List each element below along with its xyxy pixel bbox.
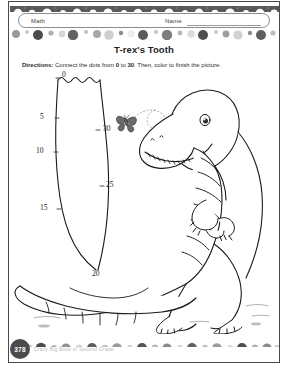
t-rex-figure (15, 90, 262, 334)
worksheet-page: Math Name (0, 0, 288, 373)
t-rex-back (238, 132, 262, 278)
t-rex-leg-right (211, 244, 241, 329)
dot-label-5: 5 (40, 112, 44, 121)
header-decorative-band (10, 28, 279, 40)
page-title: T-rex's Tooth (0, 44, 288, 55)
directions-part1: Connect the dots from (53, 62, 115, 68)
directions-text: Directions: Connect the dots from 0 to 3… (22, 61, 268, 69)
dot-label-15: 15 (40, 203, 48, 212)
dot-label-10: 10 (36, 146, 44, 155)
footer-credit: Crazy Big Book of Second Grade (34, 346, 114, 352)
dot-label-30: 30 (103, 124, 111, 133)
subject-label: Math (31, 18, 45, 24)
name-label: Name (165, 18, 182, 24)
name-input-line[interactable] (187, 25, 261, 26)
activity-artwork: 0 5 10 15 20 25 30 (10, 72, 278, 334)
dot-label-0: 0 (62, 70, 66, 79)
page-number-badge: 378 (10, 339, 30, 359)
tooth-outline (56, 78, 109, 271)
top-decorative-band (10, 3, 279, 14)
directions-lead: Directions: (22, 62, 53, 68)
directions-part3: . Then, color to finish the picture. (134, 62, 221, 68)
t-rex-eye (200, 114, 210, 125)
dot-label-20: 20 (92, 269, 100, 278)
name-bar: Math Name (18, 13, 270, 28)
dot-label-25: 25 (106, 180, 114, 189)
tooth-dot-ticks (54, 78, 104, 209)
butterfly (116, 115, 136, 132)
